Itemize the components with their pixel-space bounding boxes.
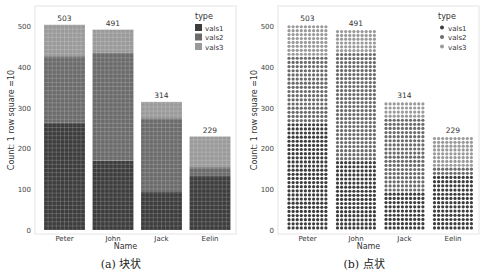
legend-label: vals1 [205, 25, 223, 33]
y-axis-label: Count: 1 row square =10 [7, 70, 16, 170]
y-tick-label: 0 [270, 227, 274, 235]
legend-title: type [438, 12, 456, 21]
total-label: 491 [106, 19, 121, 28]
y-tick-label: 400 [18, 64, 31, 72]
total-label: 503 [300, 14, 315, 23]
total-label: 503 [57, 14, 72, 23]
y-tick-label: 400 [261, 64, 274, 72]
total-label: 314 [397, 91, 412, 100]
y-axis-label: Count: 1 row square =10 [250, 70, 259, 170]
total-label: 229 [203, 126, 218, 135]
y-tick-label: 0 [27, 227, 31, 235]
legend-label: vals3 [448, 44, 466, 52]
x-axis-label: Name [114, 242, 138, 251]
bar-eelin [190, 137, 231, 230]
bar-peter [44, 25, 85, 230]
panel-a-squares: 0100200300400500Count: 1 row square =10N… [0, 0, 242, 278]
y-tick-label: 300 [18, 105, 31, 113]
legend-marker-dot-icon [440, 26, 444, 30]
bar-jack [141, 102, 182, 230]
legend-marker-square-icon [195, 34, 202, 41]
x-tick-label: Peter [298, 235, 316, 243]
x-tick-label: Eelin [201, 235, 218, 243]
y-tick-label: 200 [261, 145, 274, 153]
legend-label: vals3 [205, 44, 223, 52]
chart-b: 0100200300400500Count: 1 row square =10N… [243, 0, 485, 278]
total-label: 229 [446, 126, 461, 135]
chart-a: 0100200300400500Count: 1 row square =10N… [0, 0, 242, 278]
legend-label: vals2 [205, 34, 223, 42]
x-tick-label: Eelin [444, 235, 461, 243]
total-label: 491 [349, 19, 364, 28]
x-tick-label: John [347, 235, 363, 243]
legend-title: type [195, 12, 213, 21]
x-tick-label: Jack [396, 235, 412, 243]
x-tick-label: Jack [153, 235, 169, 243]
y-tick-label: 500 [18, 23, 31, 31]
legend-marker-dot-icon [440, 45, 444, 49]
panel-b-dots: 0100200300400500Count: 1 row square =10N… [243, 0, 485, 278]
y-tick-label: 500 [261, 23, 274, 31]
legend-marker-dot-icon [440, 35, 444, 39]
x-axis-label: Name [357, 242, 381, 251]
y-tick-label: 100 [18, 186, 31, 194]
y-tick-label: 300 [261, 105, 274, 113]
legend-label: vals2 [448, 34, 466, 42]
y-tick-label: 100 [261, 186, 274, 194]
x-tick-label: Peter [55, 235, 73, 243]
legend-marker-square-icon [195, 43, 202, 50]
caption-b: (b) 点状 [243, 255, 485, 271]
legend-marker-square-icon [195, 24, 202, 31]
caption-a: (a) 块状 [0, 255, 242, 271]
y-tick-label: 200 [18, 145, 31, 153]
legend-label: vals1 [448, 25, 466, 33]
bar-john [93, 30, 134, 230]
x-tick-label: John [104, 235, 120, 243]
total-label: 314 [154, 91, 169, 100]
